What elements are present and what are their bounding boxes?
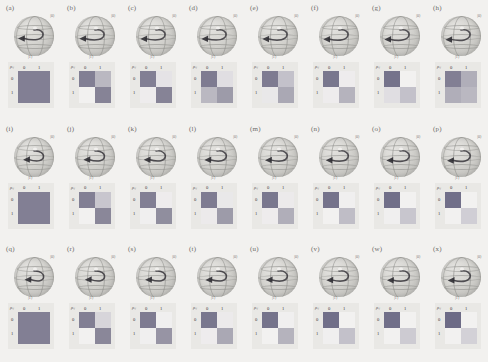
matrix-cell (95, 328, 111, 344)
matrix-cell (339, 87, 355, 103)
density-matrix-heatmap: ρᵢⱼ0101 (130, 303, 176, 349)
figure-panel: (m)|0⟩|1⟩ρᵢⱼ0101 (244, 121, 305, 242)
density-matrix-heatmap: ρᵢⱼ0101 (130, 183, 176, 229)
bloch-sphere-plot: |0⟩|1⟩ (73, 13, 117, 59)
bloch-sphere-plot: |0⟩|1⟩ (256, 254, 300, 300)
figure-panel: (i)|0⟩|1⟩ρᵢⱼ0101 (0, 121, 61, 242)
matrix-column-label: 0 (145, 306, 147, 311)
matrix-cell (339, 71, 355, 87)
matrix-cell (79, 87, 95, 103)
matrix-symbol-label: ρᵢⱼ (71, 185, 75, 190)
matrix-symbol-label: ρᵢⱼ (10, 305, 14, 310)
matrix-cell (445, 208, 461, 224)
matrix-cell (140, 192, 156, 208)
matrix-row-label: 0 (255, 197, 257, 202)
state-vector-arrow (256, 13, 300, 59)
density-matrix-heatmap: ρᵢⱼ0101 (69, 183, 115, 229)
figure-panel: (e)|0⟩|1⟩ρᵢⱼ0101 (244, 0, 305, 121)
matrix-row-label: 1 (133, 331, 135, 336)
matrix-column-label: 0 (206, 306, 208, 311)
matrix-column-label: 0 (145, 65, 147, 70)
matrix-row-label: 1 (438, 90, 440, 95)
matrix-row-label: 1 (72, 331, 74, 336)
panel-label: (m) (250, 125, 261, 133)
matrix-cell (156, 312, 172, 328)
matrix-cell (323, 192, 339, 208)
matrix-cell-group (140, 192, 172, 224)
matrix-cell-group (445, 312, 477, 344)
figure-panel: (c)|0⟩|1⟩ρᵢⱼ0101 (122, 0, 183, 121)
state-vector-arrow (195, 254, 239, 300)
bloch-sphere-plot: |0⟩|1⟩ (317, 134, 361, 180)
matrix-cell (278, 87, 294, 103)
matrix-symbol-label: ρᵢⱼ (376, 185, 380, 190)
matrix-column-label: 1 (38, 306, 40, 311)
figure-panel-grid: (a)|0⟩|1⟩ρᵢⱼ0101(b)|0⟩|1⟩ρᵢⱼ0101(c)|0⟩|1… (0, 0, 488, 362)
matrix-cell-group (323, 312, 355, 344)
panel-label: (x) (433, 245, 442, 253)
matrix-cell (217, 71, 233, 87)
matrix-cell (339, 192, 355, 208)
state-vector-arrow (439, 254, 483, 300)
matrix-symbol-label: ρᵢⱼ (437, 64, 441, 69)
matrix-cell-group (201, 71, 233, 103)
matrix-symbol-label: ρᵢⱼ (71, 305, 75, 310)
matrix-cell (156, 87, 172, 103)
bloch-sphere-plot: |0⟩|1⟩ (134, 254, 178, 300)
density-matrix-heatmap: ρᵢⱼ0101 (313, 62, 359, 108)
matrix-cell (323, 87, 339, 103)
panel-label: (t) (189, 245, 196, 253)
matrix-column-label: 1 (99, 185, 101, 190)
matrix-symbol-label: ρᵢⱼ (193, 64, 197, 69)
matrix-row-label: 0 (11, 197, 13, 202)
matrix-row-label: 1 (316, 211, 318, 216)
figure-panel: (b)|0⟩|1⟩ρᵢⱼ0101 (61, 0, 122, 121)
panel-label: (o) (372, 125, 381, 133)
state-vector-arrow (439, 13, 483, 59)
matrix-row-label: 1 (11, 90, 13, 95)
matrix-cell-merged (18, 192, 50, 224)
bloch-sphere-plot: |0⟩|1⟩ (378, 134, 422, 180)
density-matrix-heatmap: ρᵢⱼ0101 (8, 62, 54, 108)
matrix-cell (201, 328, 217, 344)
matrix-row-label: 1 (377, 211, 379, 216)
matrix-cell (262, 71, 278, 87)
matrix-column-label: 1 (343, 65, 345, 70)
state-vector-arrow (73, 254, 117, 300)
matrix-symbol-label: ρᵢⱼ (193, 185, 197, 190)
matrix-symbol-label: ρᵢⱼ (10, 64, 14, 69)
matrix-row-label: 0 (72, 317, 74, 322)
matrix-cell (461, 87, 477, 103)
matrix-column-label: 1 (160, 65, 162, 70)
figure-panel: (f)|0⟩|1⟩ρᵢⱼ0101 (305, 0, 366, 121)
matrix-column-label: 0 (328, 306, 330, 311)
matrix-column-label: 0 (389, 185, 391, 190)
panel-label: (a) (6, 4, 14, 12)
matrix-cell (400, 71, 416, 87)
matrix-cell (140, 87, 156, 103)
matrix-column-label: 0 (206, 185, 208, 190)
figure-panel: (q)|0⟩|1⟩ρᵢⱼ0101 (0, 241, 61, 362)
state-vector-arrow (134, 254, 178, 300)
density-matrix-heatmap: ρᵢⱼ0101 (252, 62, 298, 108)
matrix-cell (445, 71, 461, 87)
matrix-column-label: 1 (343, 306, 345, 311)
matrix-column-label: 0 (450, 185, 452, 190)
matrix-row-label: 1 (255, 211, 257, 216)
bloch-sphere-plot: |0⟩|1⟩ (317, 13, 361, 59)
matrix-column-label: 0 (84, 185, 86, 190)
matrix-column-label: 1 (282, 306, 284, 311)
matrix-cell-group (201, 192, 233, 224)
panel-label: (h) (433, 4, 442, 12)
matrix-symbol-label: ρᵢⱼ (376, 305, 380, 310)
figure-panel: (d)|0⟩|1⟩ρᵢⱼ0101 (183, 0, 244, 121)
state-vector-arrow (317, 134, 361, 180)
matrix-column-label: 1 (221, 306, 223, 311)
matrix-symbol-label: ρᵢⱼ (254, 185, 258, 190)
matrix-cell-group (323, 71, 355, 103)
matrix-symbol-label: ρᵢⱼ (132, 305, 136, 310)
panel-label: (v) (311, 245, 320, 253)
matrix-cell (278, 71, 294, 87)
state-vector-arrow (256, 254, 300, 300)
matrix-row-label: 0 (194, 317, 196, 322)
